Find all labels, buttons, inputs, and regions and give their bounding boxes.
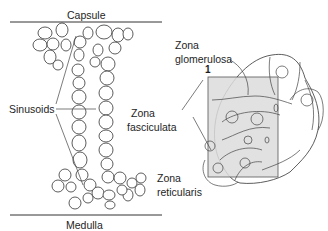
zone-detail-illustration bbox=[203, 54, 323, 186]
reticularis-cells bbox=[52, 169, 146, 209]
marker-1-leader bbox=[182, 80, 203, 110]
capsule-label: Capsule bbox=[67, 9, 106, 21]
marker-1-label: 1 bbox=[205, 64, 211, 76]
fasciculata-column-right bbox=[99, 57, 115, 183]
medulla-label: Medulla bbox=[66, 219, 103, 231]
zona-glomerulosa-label: Zona glomerulosa bbox=[175, 39, 232, 65]
fasciculata-column-left bbox=[72, 49, 88, 181]
zona-glomerulosa-line1: Zona bbox=[175, 39, 232, 51]
zona-reticularis-label: Zona reticularis bbox=[157, 172, 202, 198]
zona-reticularis-line2: reticularis bbox=[157, 186, 202, 198]
zona-fasciculata-line1: Zona bbox=[127, 107, 177, 119]
sinusoids-label: Sinusoids bbox=[9, 103, 55, 115]
zona-glomerulosa-line2: glomerulosa bbox=[175, 53, 232, 65]
zona-fasciculata-label: Zona fasciculata bbox=[127, 107, 177, 133]
highlight-box-1 bbox=[208, 77, 278, 177]
glomerulosa-cells bbox=[33, 23, 133, 70]
zona-reticularis-line1: Zona bbox=[157, 172, 202, 184]
zona-fasciculata-line2: fasciculata bbox=[127, 121, 177, 133]
